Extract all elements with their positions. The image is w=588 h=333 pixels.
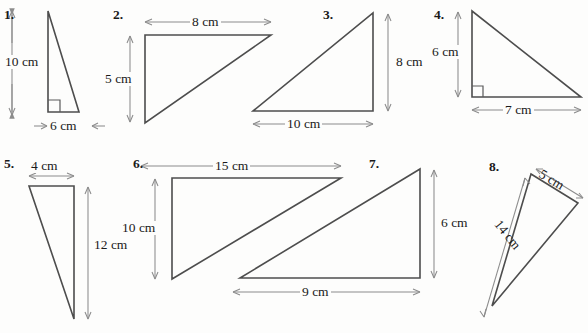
problem-number-6: 6.	[133, 157, 143, 171]
dimension-label-4-height: 6 cm	[430, 45, 461, 59]
figure-6	[141, 163, 341, 279]
dimension-label-4-base: 7 cm	[503, 103, 534, 117]
figure-5	[29, 173, 91, 319]
dimension-label-2-base: 8 cm	[190, 15, 221, 29]
problem-number-7: 7.	[369, 157, 379, 171]
dimension-label-6-height: 10 cm	[120, 221, 157, 235]
figure-1	[9, 11, 105, 129]
dimension-label-5-height: 12 cm	[92, 238, 129, 252]
triangle-worksheet: 1. 10 cm 6 cm 2. 8 cm 5 cm 3. 8 cm 10 cm…	[0, 0, 588, 333]
figure-3	[253, 13, 391, 127]
problem-number-8: 8.	[489, 160, 499, 174]
figure-4	[455, 11, 581, 113]
dimension-label-6-base: 15 cm	[213, 159, 250, 173]
figure-7	[233, 169, 437, 295]
dimension-label-3-height: 8 cm	[394, 55, 425, 69]
figure-2	[127, 19, 271, 123]
problem-number-4: 4.	[434, 8, 444, 22]
problem-number-3: 3.	[323, 8, 333, 22]
dimension-label-2-height: 5 cm	[103, 72, 134, 86]
figure-8	[480, 169, 583, 317]
problem-number-5: 5.	[4, 157, 14, 171]
dimension-label-3-base: 10 cm	[285, 117, 322, 131]
problem-number-1: 1.	[4, 8, 14, 22]
problem-number-2: 2.	[113, 8, 123, 22]
dimension-label-5-base: 4 cm	[29, 159, 60, 173]
worksheet-figures	[0, 0, 588, 333]
dimension-label-1-base: 6 cm	[48, 119, 79, 133]
dimension-label-7-base: 9 cm	[300, 285, 331, 299]
dimension-label-1-height: 10 cm	[3, 55, 40, 69]
dimension-label-7-height: 6 cm	[439, 216, 470, 230]
